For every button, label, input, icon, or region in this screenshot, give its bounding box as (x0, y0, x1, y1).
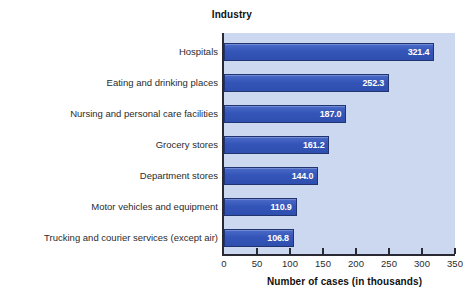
y-axis-label-2: Nursing and personal care facilities (0, 108, 218, 119)
x-tick-label-7: 350 (447, 258, 463, 269)
bar-value-label-5: 110.9 (271, 202, 292, 212)
y-axis-label-5: Motor vehicles and equipment (0, 201, 218, 212)
x-tick-label-2: 100 (282, 258, 298, 269)
x-axis-title: Number of cases (in thousands) (222, 276, 467, 287)
bar-value-label-6: 106.8 (267, 233, 289, 243)
bar-5[interactable]: 110.9 (224, 198, 297, 216)
y-axis-label-3: Grocery stores (0, 139, 218, 150)
x-axis-tick-labels: 050100150200250300350 (222, 258, 455, 272)
bar-0[interactable]: 321.4 (224, 43, 434, 61)
bar-value-label-0: 321.4 (408, 47, 430, 57)
y-axis-category-labels: Hospitals Eating and drinking places Nur… (0, 33, 218, 256)
bar-value-label-4: 144.0 (292, 171, 314, 181)
y-axis-label-6: Trucking and courier services (except ai… (0, 232, 218, 243)
bar-chart-figure: Industry Hospitals Eating and drinking p… (0, 0, 471, 305)
bars-layer: 321.4 252.3 187.0 161.2 144.0 110.9 106.… (224, 33, 453, 256)
x-tick-label-4: 200 (348, 258, 364, 269)
y-axis-label-0: Hospitals (0, 46, 218, 57)
y-axis-label-4: Department stores (0, 170, 218, 181)
bar-2[interactable]: 187.0 (224, 105, 346, 123)
x-tick-label-1: 50 (252, 258, 263, 269)
x-tick-label-5: 250 (381, 258, 397, 269)
x-tick-label-6: 300 (414, 258, 430, 269)
chart-title: Industry (0, 9, 252, 20)
x-tick-label-3: 150 (315, 258, 331, 269)
bar-4[interactable]: 144.0 (224, 167, 318, 185)
bar-6[interactable]: 106.8 (224, 229, 294, 247)
y-axis-label-1: Eating and drinking places (0, 77, 218, 88)
bar-value-label-1: 252.3 (363, 78, 385, 88)
bar-value-label-2: 187.0 (320, 109, 342, 119)
x-tick-label-0: 0 (221, 258, 226, 269)
bar-1[interactable]: 252.3 (224, 74, 389, 92)
bar-3[interactable]: 161.2 (224, 136, 329, 154)
bar-value-label-3: 161.2 (303, 140, 325, 150)
